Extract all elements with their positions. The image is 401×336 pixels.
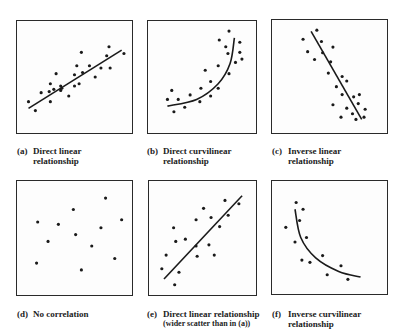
data-point <box>339 264 342 267</box>
scatter-plot-d <box>17 181 132 295</box>
caption-tag-e: (e) <box>147 309 161 329</box>
data-point <box>362 116 365 119</box>
data-point <box>173 283 176 286</box>
trend-line-c <box>311 31 362 119</box>
caption-e: (e) Direct linear relationship (wider sc… <box>147 309 260 329</box>
data-point <box>341 75 344 78</box>
data-point <box>122 52 125 55</box>
caption-line-f-1: Inverse curvilinear <box>288 309 361 319</box>
data-point <box>46 240 49 243</box>
data-point <box>88 64 91 67</box>
caption-line-c-2: relationship <box>288 156 341 166</box>
data-point <box>331 103 334 106</box>
data-point <box>198 100 201 103</box>
data-point <box>300 259 303 262</box>
data-point <box>209 216 212 219</box>
trend-curve-b <box>167 38 234 106</box>
data-point <box>73 73 76 76</box>
data-point <box>183 106 186 109</box>
data-point <box>104 197 107 200</box>
data-point <box>170 89 173 92</box>
data-point <box>49 100 52 103</box>
caption-line-f-2: relationship <box>288 319 361 329</box>
data-point <box>48 90 51 93</box>
data-point <box>207 243 210 246</box>
caption-line-e-1: Direct linear relationship <box>163 309 260 319</box>
data-point <box>57 223 60 226</box>
data-point <box>60 87 63 90</box>
data-point <box>295 201 298 204</box>
scatter-plot-f <box>272 181 387 294</box>
caption-tag-c: (c) <box>272 146 286 166</box>
data-point <box>352 95 355 98</box>
caption-line-b-2: relationship <box>163 156 232 166</box>
caption-c: (c) Inverse linear relationship <box>272 146 341 166</box>
caption-line-a-2: relationship <box>33 156 82 166</box>
data-point <box>80 51 83 54</box>
data-point <box>109 66 112 69</box>
data-point <box>351 112 354 115</box>
data-point <box>202 207 205 210</box>
data-point <box>209 94 212 97</box>
data-point <box>223 199 226 202</box>
data-point <box>224 45 227 48</box>
data-point <box>160 267 163 270</box>
data-point <box>172 110 175 113</box>
data-point <box>240 58 243 61</box>
data-point <box>52 88 55 91</box>
data-point <box>80 268 83 271</box>
caption-line-a-1: Direct linear <box>33 146 82 156</box>
data-point <box>293 240 296 243</box>
data-point <box>196 255 199 258</box>
data-point <box>107 45 110 48</box>
data-point <box>308 261 311 264</box>
plot-frame-b <box>147 20 257 134</box>
data-point <box>81 71 84 74</box>
scatter-plot-a <box>17 21 132 133</box>
data-point <box>27 100 30 103</box>
data-point <box>49 82 52 85</box>
data-point <box>227 72 230 75</box>
data-point <box>227 214 230 217</box>
data-point <box>74 233 77 236</box>
data-point <box>315 29 318 32</box>
data-point <box>99 226 102 229</box>
trend-line-a <box>29 50 122 108</box>
data-point <box>34 109 37 112</box>
data-point <box>113 257 116 260</box>
data-point <box>40 91 43 94</box>
caption-tag-a: (a) <box>17 146 31 166</box>
data-point <box>166 98 169 101</box>
caption-line-c-1: Inverse linear <box>288 146 341 156</box>
data-point <box>72 208 75 211</box>
data-point <box>226 52 229 55</box>
data-point <box>321 51 324 54</box>
data-point <box>75 64 78 67</box>
data-point <box>204 69 207 72</box>
data-point <box>174 240 177 243</box>
data-point <box>209 80 212 83</box>
scatter-plot-b <box>148 21 256 133</box>
caption-line-e-2: (wider scatter than in (a)) <box>163 319 260 329</box>
data-point <box>326 273 329 276</box>
data-point <box>36 220 39 223</box>
caption-tag-f: (f) <box>272 309 286 329</box>
data-point <box>94 75 97 78</box>
data-point <box>172 226 175 229</box>
caption-d: (d) No correlation <box>17 309 89 319</box>
data-point <box>238 51 241 54</box>
data-point <box>321 254 324 257</box>
caption-b: (b) Direct curvilinear relationship <box>147 146 232 166</box>
data-point <box>213 254 216 257</box>
plot-frame-c <box>271 19 388 134</box>
data-point <box>120 218 123 221</box>
data-point <box>35 262 38 265</box>
data-point <box>298 219 301 222</box>
data-point <box>335 85 338 88</box>
caption-tag-b: (b) <box>147 146 161 166</box>
plot-frame-a <box>16 20 133 134</box>
data-point <box>177 98 180 101</box>
data-point <box>238 41 241 44</box>
caption-line-b-1: Direct curvilinear <box>163 146 232 156</box>
data-point <box>358 93 361 96</box>
